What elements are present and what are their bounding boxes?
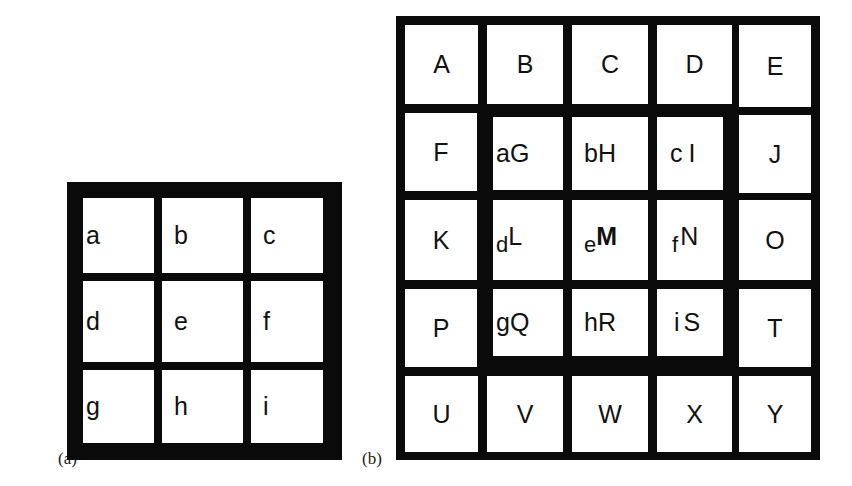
cell-label: K <box>433 226 450 255</box>
cell-small-label: b <box>575 139 598 168</box>
cell-label: J <box>769 140 782 169</box>
grid-b-cell: X <box>657 376 732 452</box>
cell-label: V <box>517 400 534 429</box>
grid-a-cell: d <box>83 281 154 362</box>
grid-b-inner-cell: iS <box>657 289 723 356</box>
cell-label: A <box>433 50 450 79</box>
grid-b-cell: K <box>405 200 477 280</box>
cell-label: T <box>767 314 782 343</box>
cell-label: F <box>433 138 448 167</box>
grid-b-inner-cell: aG <box>493 117 563 190</box>
grid-a-cell: i <box>251 370 323 443</box>
cell-small-label: h <box>575 308 598 337</box>
cell-label: Y <box>767 400 784 429</box>
cell-small-label: e <box>575 232 596 258</box>
grid-b-inner-cell: fN <box>657 200 723 280</box>
grid-3x3: a b c d e f g h i <box>67 182 342 460</box>
grid-b-cell: P <box>405 289 477 367</box>
cell-small-label: c <box>660 139 689 168</box>
cell-label: B <box>517 50 534 79</box>
cell-big-label: I <box>689 139 696 168</box>
cell-label: g <box>86 392 100 421</box>
grid-b-inner-cell: bH <box>572 117 648 190</box>
cell-small-label: i <box>660 308 684 337</box>
grid-a-cell: f <box>251 281 323 362</box>
grid-b-inner-cell: cI <box>657 117 723 190</box>
cell-label: W <box>598 400 622 429</box>
cell-label: a <box>86 221 100 250</box>
cell-big-label: L <box>508 222 522 251</box>
grid-a-cell: e <box>162 281 243 362</box>
grid-b-inner-cell: gQ <box>493 289 563 356</box>
cell-small-label: f <box>660 232 680 258</box>
cell-label: D <box>685 50 703 79</box>
cell-big-label: G <box>510 139 529 168</box>
cell-label: E <box>767 52 784 81</box>
grid-b-cell: F <box>405 113 477 191</box>
grid-b-cell: E <box>739 25 811 107</box>
grid-b-inner-cell: dL <box>493 200 563 280</box>
grid-b-cell: W <box>572 376 648 452</box>
grid-b-cell: D <box>657 25 732 104</box>
grid-b-cell: J <box>739 115 811 193</box>
cell-label: f <box>254 307 270 336</box>
cell-small-label: g <box>496 308 510 337</box>
grid-b-cell: A <box>405 25 478 104</box>
grid-b-cell: B <box>487 25 563 104</box>
grid-5x5: A B C D E F aG bH cI J K dL eM fN O P gQ… <box>396 16 820 460</box>
cell-label: d <box>86 307 100 336</box>
grid-b-cell: O <box>739 200 811 280</box>
cell-big-label: Q <box>510 308 529 337</box>
cell-label: O <box>765 226 784 255</box>
cell-big-label: M <box>596 222 617 251</box>
grid-a-cell: h <box>162 370 243 443</box>
grid-b-cell: V <box>487 376 563 452</box>
grid-a-cell: c <box>251 198 323 273</box>
cell-small-label: d <box>496 232 508 258</box>
grid-a-cell: g <box>83 370 154 443</box>
cell-label: i <box>254 392 269 421</box>
grid-b-cell: C <box>572 25 648 104</box>
cell-label: e <box>165 307 188 336</box>
grid-b-cell: U <box>405 376 478 452</box>
cell-label: X <box>686 400 703 429</box>
cell-label: U <box>432 400 450 429</box>
grid-b-inner-cell: hR <box>572 289 648 356</box>
cell-label: P <box>433 314 450 343</box>
grid-b-cell: T <box>739 289 811 367</box>
cell-big-label: N <box>680 222 698 251</box>
grid-b-inner-cell: eM <box>572 200 648 280</box>
cell-big-label: H <box>598 139 616 168</box>
grid-b-cell: Y <box>739 376 811 452</box>
cell-label: c <box>254 221 276 250</box>
cell-label: h <box>165 392 188 421</box>
cell-big-label: S <box>684 308 701 337</box>
panel-b-label: (b) <box>362 449 382 469</box>
grid-a-cell: b <box>162 198 243 273</box>
cell-label: C <box>601 50 619 79</box>
cell-big-label: R <box>598 308 616 337</box>
cell-small-label: a <box>496 139 510 168</box>
cell-label: b <box>165 221 188 250</box>
grid-a-cell: a <box>83 198 154 273</box>
